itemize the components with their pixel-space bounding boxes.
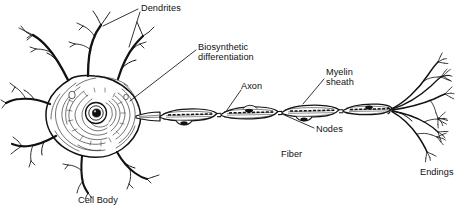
neuron-diagram-figure: Dendrites Biosyntheticdifferentiation Ax… (0, 0, 469, 221)
soma-vacuole-small (124, 94, 129, 100)
label-dendrites: Dendrites (141, 3, 181, 13)
dendrite-twig (69, 42, 91, 50)
label-myelin-line-2: sheath (326, 77, 354, 87)
label-cell-body: Cell Body (78, 195, 118, 205)
label-biosynthetic-line-2: differentiation (198, 52, 254, 62)
label-biosynthetic-line-1: Biosynthetic (198, 42, 248, 52)
leader-myelin-sheath (303, 79, 324, 104)
soma-group (46, 75, 141, 157)
schwann-nucleus (245, 109, 253, 113)
schwann-nucleus (365, 106, 373, 110)
terminal-endings-group (388, 52, 455, 162)
leader-axon (227, 90, 241, 110)
label-biosynthetic-differentiation: Biosyntheticdifferentiation (198, 42, 254, 63)
internode-2 (221, 105, 278, 119)
axon-fiber-group (136, 104, 392, 125)
label-myelin-line-1: Myelin (326, 67, 353, 77)
label-endings: Endings (420, 167, 454, 177)
leader-biosynthetic (130, 50, 196, 101)
dendrite-twig (42, 142, 44, 155)
ending-branch-4 (392, 111, 438, 132)
ending-branch-5 (392, 112, 427, 152)
leader-dendrites-left (103, 9, 138, 26)
soma-vacuole (69, 91, 75, 99)
label-axon: Axon (241, 81, 262, 91)
dendrite-upper-left (33, 35, 68, 80)
nucleolus (92, 109, 100, 117)
dendrite-top-main (88, 25, 101, 76)
schwann-nucleus (180, 121, 187, 125)
dendrite-twig (19, 26, 33, 40)
schwann-nucleus (300, 117, 307, 121)
internode-4 (343, 104, 392, 115)
schwann-bulge (243, 105, 257, 108)
nucleolus-highlight (94, 110, 96, 112)
label-fiber: Fiber (281, 149, 302, 159)
dendrite-bottom (81, 156, 88, 193)
internode-3 (282, 105, 339, 121)
dendrite-twig (147, 175, 159, 183)
label-myelin-sheath: Myelinsheath (326, 67, 354, 88)
dendrite-bottom-right (117, 152, 147, 179)
dendrite-twig (29, 145, 35, 167)
dendrite-twig (93, 11, 110, 25)
dendrite-twig (137, 22, 154, 36)
neuron-illustration (0, 0, 469, 221)
dendrite-twig (1, 100, 6, 108)
dendrite-twig (10, 83, 26, 99)
dendrite-twig (63, 164, 81, 170)
dendrite-twig (77, 23, 95, 37)
label-nodes: Nodes (316, 124, 343, 134)
internode-1 (160, 109, 217, 125)
dendrite-left (6, 99, 50, 104)
